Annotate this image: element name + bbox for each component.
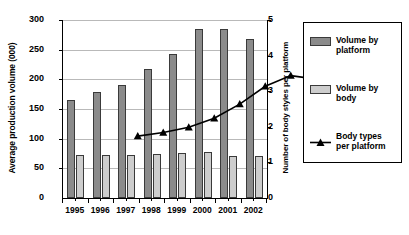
- y-tick-label-left: 250: [20, 45, 44, 54]
- x-tickmark: [164, 198, 165, 203]
- bar-volume-by-platform: [93, 92, 101, 198]
- bar-group: [63, 20, 89, 198]
- y-axis-left-ticks: 050100150200250300: [20, 0, 44, 235]
- x-axis-labels: 19951996199719981999200020012002: [62, 205, 266, 219]
- x-tickmark-minor: [151, 198, 152, 201]
- legend-label-line2: body: [336, 93, 398, 103]
- bar-group: [89, 20, 115, 198]
- y-tick-label-left: 300: [20, 15, 44, 24]
- legend-label-line1: Body types: [336, 131, 398, 141]
- x-axis-tickmarks: [62, 198, 266, 203]
- legend-item[interactable]: Body typesper platform: [310, 131, 398, 151]
- legend-label-line1: Volume by: [336, 35, 398, 45]
- x-tickmark-minor: [100, 198, 101, 201]
- line-marker-triangle: [210, 114, 218, 121]
- x-tickmark: [215, 198, 216, 203]
- x-tickmark: [62, 198, 63, 203]
- bar-volume-by-body: [76, 155, 84, 198]
- legend-label-line2: platform: [336, 45, 398, 55]
- y-tick-label-left: 50: [20, 163, 44, 172]
- x-tick-label: 2002: [238, 205, 268, 215]
- legend-item[interactable]: Volume byplatform: [310, 35, 398, 55]
- x-tickmark-minor: [177, 198, 178, 201]
- y-tick-label-left: 100: [20, 134, 44, 143]
- chart-legend: Volume byplatformVolume bybodyBody types…: [303, 22, 402, 163]
- x-tickmark-minor: [126, 198, 127, 201]
- y-tick-label-right: 5: [268, 15, 292, 24]
- x-tickmark-minor: [253, 198, 254, 201]
- legend-label: Volume bybody: [336, 83, 398, 103]
- x-tickmark-minor: [75, 198, 76, 201]
- x-tickmark: [190, 198, 191, 203]
- x-tickmark: [113, 198, 114, 203]
- x-tickmark-minor: [228, 198, 229, 201]
- line-body-types-per-platform: [138, 76, 317, 137]
- x-tickmark-minor: [202, 198, 203, 201]
- x-tickmark: [266, 198, 267, 203]
- chart-container: Average production volume (000) Number o…: [0, 0, 409, 235]
- legend-label-line1: Volume by: [336, 83, 398, 93]
- y-tick-label-left: 200: [20, 74, 44, 83]
- x-tickmark: [88, 198, 89, 203]
- legend-label-line2: per platform: [336, 141, 398, 151]
- x-tickmark: [139, 198, 140, 203]
- y-tick-label-left: 0: [20, 193, 44, 202]
- y-tickmark-right: [267, 20, 271, 21]
- legend-label: Body typesper platform: [336, 131, 398, 151]
- y-axis-left-title: Average production volume (000): [7, 28, 17, 188]
- y-tick-label-left: 150: [20, 104, 44, 113]
- plot-area: [62, 20, 268, 199]
- bar-volume-by-body: [102, 155, 110, 198]
- line-series-overlay: [125, 40, 329, 218]
- x-tickmark: [241, 198, 242, 203]
- legend-item[interactable]: Volume bybody: [310, 83, 398, 103]
- legend-label: Volume byplatform: [336, 35, 398, 55]
- legend-swatch-volume-by-body: [310, 85, 331, 94]
- bar-volume-by-platform: [67, 100, 75, 198]
- legend-marker-body-types-per-platform: [310, 133, 331, 142]
- legend-swatch-volume-by-platform: [310, 37, 331, 46]
